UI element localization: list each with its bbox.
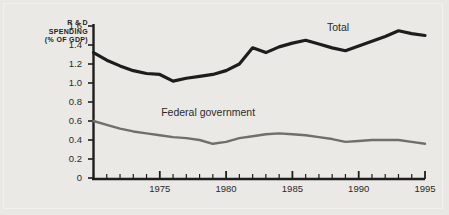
y-tick-label: 0 — [56, 172, 82, 183]
x-tick-label: 1995 — [405, 183, 445, 194]
y-tick-label: 1.6 — [56, 20, 82, 31]
x-tick-label: 1975 — [140, 183, 180, 194]
y-tick-label: 1.0 — [56, 77, 82, 88]
y-tick-label: 1.4 — [56, 39, 82, 50]
x-tick-label: 1980 — [206, 183, 246, 194]
x-tick-label: 1985 — [272, 183, 312, 194]
y-tick-label: 0.4 — [56, 134, 82, 145]
series-paths — [94, 31, 426, 144]
y-tick-label: 0.8 — [56, 96, 82, 107]
y-tick-label: 0.2 — [56, 153, 82, 164]
y-tick-label: 0.6 — [56, 115, 82, 126]
y-tick-label: 1.2 — [56, 58, 82, 69]
x-tick-label: 1990 — [339, 183, 379, 194]
chart-page: R & D SPENDING (% OF GDP) 00.20.40.60.81… — [0, 0, 449, 215]
series-label: Federal government — [161, 106, 255, 118]
series-label: Total — [327, 21, 349, 33]
